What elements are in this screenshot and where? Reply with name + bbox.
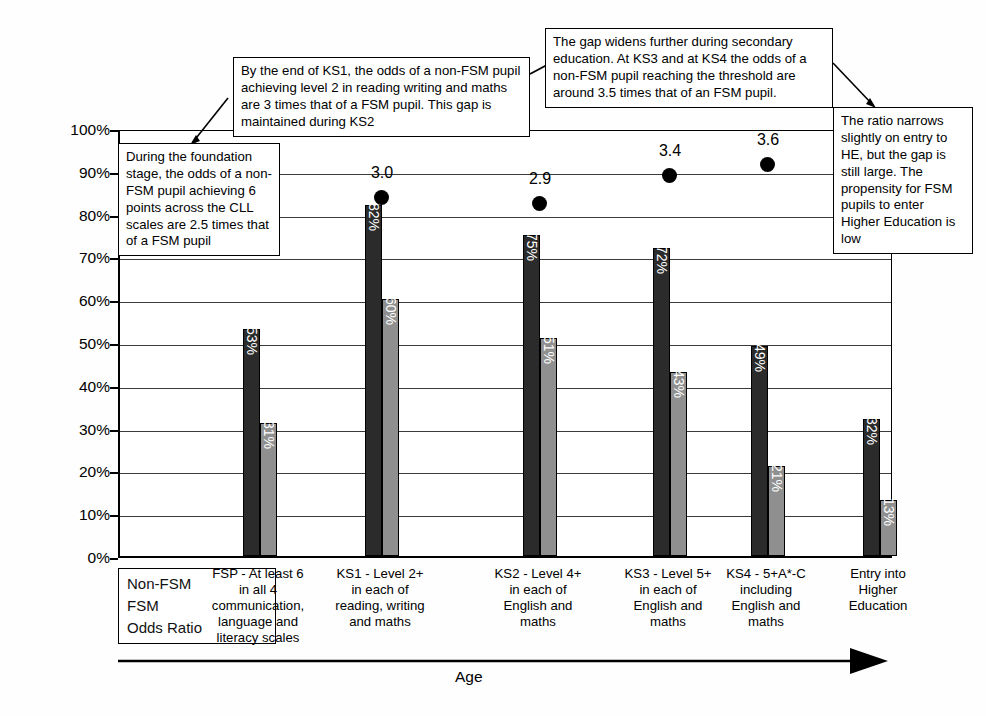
- category-label-line: and maths: [320, 614, 440, 630]
- category-label-line: Education: [826, 598, 930, 614]
- gridline: [120, 302, 891, 303]
- y-axis-tick-mark: [110, 258, 118, 260]
- y-axis-tick-label: 50%: [50, 336, 110, 352]
- x-axis-category-label: KS1 - Level 2+in each ofreading, writing…: [320, 566, 440, 630]
- y-axis-tick-mark: [110, 387, 118, 389]
- y-axis-tick-mark: [110, 301, 118, 303]
- y-axis-tick-mark: [110, 430, 118, 432]
- y-axis-tick-label: 100%: [50, 122, 110, 138]
- bar-nonfsm: 75%: [523, 235, 540, 556]
- odds-ratio-dot: [374, 190, 389, 205]
- bar-value-label: 31%: [261, 421, 277, 449]
- x-axis-category-label: KS2 - Level 4+in each ofEnglish andmaths: [479, 566, 597, 630]
- annotation-foundation-stage: During the foundation stage, the odds of…: [118, 143, 280, 256]
- y-axis-tick-mark: [110, 130, 118, 132]
- y-axis-tick-label: 10%: [50, 507, 110, 523]
- bar-value-label: 43%: [671, 370, 687, 398]
- gridline: [120, 259, 891, 260]
- odds-ratio-dot: [532, 196, 547, 211]
- odds-ratio-value-label: 3.6: [757, 131, 779, 149]
- category-label-line: including: [708, 582, 824, 598]
- bar-nonfsm: 82%: [365, 205, 382, 556]
- category-label-line: maths: [708, 614, 824, 630]
- y-axis-tick-mark: [110, 515, 118, 517]
- bar-fsm: 21%: [768, 466, 785, 556]
- odds-ratio-dot: [662, 168, 677, 183]
- y-axis-tick-label: 40%: [50, 379, 110, 395]
- bar-fsm: 51%: [540, 338, 557, 556]
- y-axis-tick-mark: [110, 216, 118, 218]
- x-axis-category-label: FSP - At least 6in all 4communication,la…: [192, 566, 324, 646]
- y-axis-tick-mark: [110, 344, 118, 346]
- y-axis-tick-label: 80%: [50, 208, 110, 224]
- y-axis-tick-label: 70%: [50, 250, 110, 266]
- bar-value-label: 53%: [244, 327, 260, 355]
- category-label-line: English and: [708, 598, 824, 614]
- gridline: [120, 388, 891, 389]
- annotation-higher-education: The ratio narrows slightly on entry to H…: [833, 107, 973, 254]
- bar-value-label: 72%: [654, 246, 670, 274]
- category-label-line: KS1 - Level 2+: [320, 566, 440, 582]
- bar-nonfsm: 32%: [863, 419, 880, 556]
- y-axis-tick-mark: [110, 472, 118, 474]
- bar-nonfsm: 53%: [243, 329, 260, 556]
- bar-value-label: 75%: [524, 233, 540, 261]
- category-label-line: KS4 - 5+A*-C: [708, 566, 824, 582]
- gridline: [120, 345, 891, 346]
- odds-ratio-dot: [760, 157, 775, 172]
- category-label-line: Higher: [826, 582, 930, 598]
- category-label-line: in each of: [479, 582, 597, 598]
- x-axis-category-label: KS4 - 5+A*-CincludingEnglish andmaths: [708, 566, 824, 630]
- bar-value-label: 49%: [752, 344, 768, 372]
- annotation-secondary: The gap widens further during secondary …: [545, 28, 833, 108]
- odds-ratio-value-label: 3.4: [659, 142, 681, 160]
- bar-fsm: 60%: [382, 299, 399, 556]
- category-label-line: in all 4: [192, 582, 324, 598]
- category-label-line: English and: [479, 598, 597, 614]
- bar-fsm: 43%: [670, 372, 687, 556]
- gridline: [120, 431, 891, 432]
- bar-fsm: 31%: [260, 423, 277, 556]
- category-label-line: reading, writing: [320, 598, 440, 614]
- y-axis-tick-label: 90%: [50, 165, 110, 181]
- category-label-line: FSP - At least 6: [192, 566, 324, 582]
- annotation-ks1-ks2: By the end of KS1, the odds of a non-FSM…: [233, 57, 530, 137]
- category-label-line: KS2 - Level 4+: [479, 566, 597, 582]
- bar-value-label: 60%: [383, 297, 399, 325]
- odds-ratio-value-label: 2.9: [529, 170, 551, 188]
- category-label-line: literacy scales: [192, 630, 324, 646]
- category-label-line: maths: [479, 614, 597, 630]
- y-axis-tick-label: 60%: [50, 293, 110, 309]
- bar-nonfsm: 49%: [751, 346, 768, 556]
- bar-value-label: 51%: [541, 336, 557, 364]
- x-axis-title: Age: [455, 668, 483, 686]
- category-label-line: in each of: [320, 582, 440, 598]
- category-label-line: Entry into: [826, 566, 930, 582]
- category-label-line: communication,: [192, 598, 324, 614]
- bar-value-label: 82%: [366, 203, 382, 231]
- odds-ratio-value-label: 3.0: [371, 164, 393, 182]
- y-axis-tick-label: 0%: [50, 550, 110, 566]
- x-axis-category-label: Entry intoHigherEducation: [826, 566, 930, 614]
- y-axis-tick-mark: [110, 173, 118, 175]
- bar-value-label: 32%: [864, 417, 880, 445]
- bar-nonfsm: 72%: [653, 248, 670, 556]
- bar-value-label: 21%: [769, 464, 785, 492]
- bar-value-label: 13%: [881, 498, 897, 526]
- chart-canvas: Percentage reaching threshold 53%31%82%6…: [0, 0, 986, 716]
- y-axis-tick-mark: [110, 558, 118, 560]
- y-axis-tick-label: 20%: [50, 464, 110, 480]
- category-label-line: language and: [192, 614, 324, 630]
- y-axis-tick-label: 30%: [50, 422, 110, 438]
- bar-fsm: 13%: [880, 500, 897, 556]
